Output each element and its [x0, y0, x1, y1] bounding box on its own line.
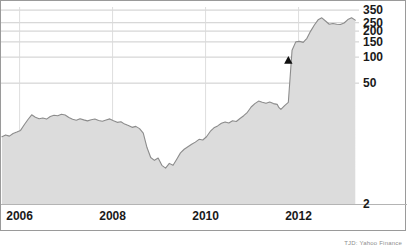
y-tick-label: 350: [363, 4, 383, 16]
x-tick-label: 2008: [99, 209, 126, 223]
y-tick-label: 50: [363, 77, 376, 89]
plot-area: [1, 1, 359, 230]
plot-svg: [1, 1, 359, 230]
price-area-fill: [2, 18, 355, 204]
x-tick-label: 2012: [285, 209, 312, 223]
y-tick-label: 150: [363, 36, 383, 48]
stock-price-chart: 350250200150100502 2006200820102012 TJD:…: [0, 0, 408, 247]
y-tick-label: 100: [363, 51, 383, 63]
source-attribution: TJD: Yahoo Finance: [344, 240, 402, 246]
chart-frame: 350250200150100502 2006200820102012: [0, 0, 406, 231]
x-axis-tick-labels: 2006200820102012: [1, 205, 359, 230]
y-axis-tick-labels: 350250200150100502: [363, 1, 407, 230]
x-tick-label: 2006: [6, 209, 33, 223]
y-tick-label: 2: [363, 198, 370, 210]
x-tick-label: 2010: [192, 209, 219, 223]
